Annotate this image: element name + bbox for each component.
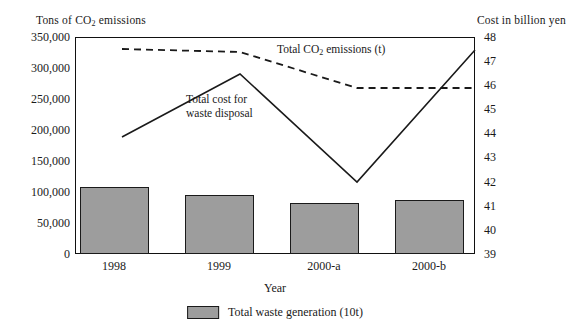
annotation-co2-line-label: Total CO2 emissions (t) — [277, 42, 385, 58]
x-tick-1998: 1998 — [64, 259, 164, 274]
x-tick-2000-a: 2000-a — [274, 259, 374, 274]
x-tick-2000-b: 2000-b — [379, 259, 479, 274]
annotation-cost-line2: waste disposal — [186, 106, 253, 120]
legend-swatch-total-waste-generation — [187, 306, 219, 319]
annotation-cost-line-label: Total cost for waste disposal — [186, 92, 253, 120]
annotation-co2-tail: emissions (t) — [323, 43, 385, 55]
annotation-cost-line1: Total cost for — [186, 92, 253, 106]
chart-legend: Total waste generation (10t) — [187, 305, 363, 320]
annotation-co2-main: Total CO — [277, 43, 319, 55]
legend-label-total-waste-generation: Total waste generation (10t) — [228, 305, 363, 320]
x-axis-title: Year — [264, 281, 286, 296]
cost-line-series[interactable] — [122, 50, 475, 182]
x-tick-1999: 1999 — [169, 259, 269, 274]
